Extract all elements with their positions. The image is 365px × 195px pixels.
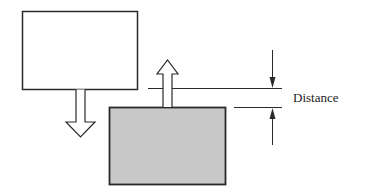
upper-body-box xyxy=(23,12,138,90)
dimension-arrow-down-icon xyxy=(270,77,276,88)
distance-label: Distance xyxy=(293,90,338,106)
dimension-arrow-up-icon xyxy=(270,108,276,119)
up-motion-arrow-icon xyxy=(157,60,178,107)
distance-diagram: Distance xyxy=(0,0,365,195)
down-motion-arrow-icon xyxy=(66,90,95,138)
lower-body-box xyxy=(110,108,226,185)
